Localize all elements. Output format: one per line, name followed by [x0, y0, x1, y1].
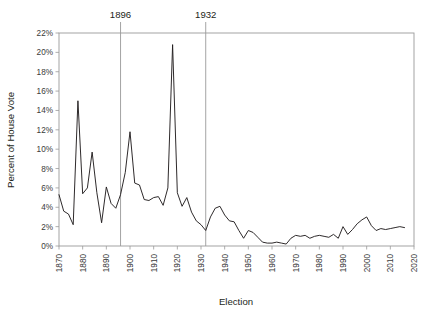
y-axis-tick-label: 12% [37, 126, 53, 135]
x-axis-tick-label: 2010 [386, 254, 395, 273]
y-axis-group: 0%2%4%6%8%10%12%14%16%18%20%22% [37, 29, 59, 251]
x-axis-group: 1870188018901900191019201930194019501960… [55, 246, 419, 272]
vote-share-line-chart: 0%2%4%6%8%10%12%14%16%18%20%22% 18701880… [0, 0, 434, 314]
y-axis-tick-label: 2% [41, 223, 53, 232]
x-axis-tick-label: 1990 [339, 254, 348, 273]
y-axis-tick-label: 14% [37, 106, 53, 115]
y-axis-tick-label: 18% [37, 68, 53, 77]
x-axis-title: Election [219, 296, 253, 307]
x-axis-tick-label: 1950 [244, 254, 253, 273]
x-axis-tick-label: 1890 [102, 254, 111, 273]
y-axis-tick-label: 20% [37, 48, 53, 57]
annotation-labels-group: 18961932 [110, 9, 217, 20]
y-axis-tick-label: 6% [41, 184, 53, 193]
y-axis-tick-label: 0% [41, 242, 53, 251]
y-axis-title: Percent of House Vote [5, 92, 16, 188]
y-axis-tick-label: 8% [41, 165, 53, 174]
x-axis-tick-label: 1870 [55, 254, 64, 273]
x-axis-tick-label: 1920 [173, 254, 182, 273]
y-axis-tick-label: 4% [41, 203, 53, 212]
x-axis-tick-label: 2020 [410, 254, 419, 273]
x-axis-tick-label: 1960 [268, 254, 277, 273]
y-axis-tick-label: 16% [37, 87, 53, 96]
y-axis-tick-label: 10% [37, 145, 53, 154]
x-axis-tick-label: 1970 [292, 254, 301, 273]
x-axis-tick-label: 1910 [150, 254, 159, 273]
y-axis-tick-label: 22% [37, 29, 53, 38]
x-axis-tick-label: 1880 [79, 254, 88, 273]
annotation-label-1932: 1932 [195, 9, 216, 20]
plot-area [59, 33, 414, 246]
x-axis-tick-label: 1940 [221, 254, 230, 273]
x-axis-tick-label: 1930 [197, 254, 206, 273]
annotation-label-1896: 1896 [110, 9, 131, 20]
chart-container: 0%2%4%6%8%10%12%14%16%18%20%22% 18701880… [0, 0, 434, 314]
x-axis-tick-label: 1980 [315, 254, 324, 273]
x-axis-tick-label: 1900 [126, 254, 135, 273]
x-axis-tick-label: 2000 [363, 254, 372, 273]
plot-frame [59, 33, 414, 246]
